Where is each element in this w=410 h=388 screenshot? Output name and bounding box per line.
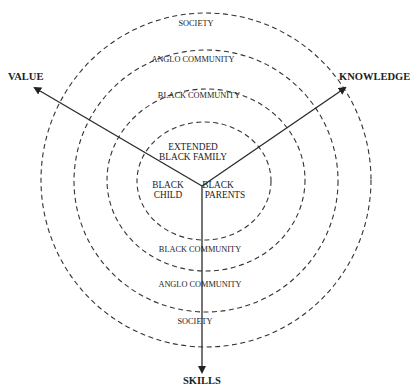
skills-axis-label: SKILLS (183, 375, 221, 386)
value-axis (35, 88, 202, 186)
society-label-bottom: SOCIETY (177, 317, 212, 326)
black-parents-label-line1: BLACK (202, 180, 234, 190)
knowledge-axis (202, 88, 345, 186)
knowledge-axis-label: KNOWLEDGE (339, 71, 410, 82)
anglo-community-label-top: ANGLO COMMUNITY (151, 55, 234, 64)
black-community-label-top: BLACK COMMUNITY (158, 91, 240, 100)
extended-family-label-line1: EXTENDED (168, 142, 218, 152)
diagram-canvas: VALUE KNOWLEDGE SKILLS SOCIETY ANGLO COM… (0, 0, 410, 388)
black-child-label-line2: CHILD (154, 190, 183, 200)
ecological-model-diagram: VALUE KNOWLEDGE SKILLS SOCIETY ANGLO COM… (0, 0, 410, 388)
value-axis-label: VALUE (8, 71, 43, 82)
black-community-label-bottom: BLACK COMMUNITY (159, 245, 241, 254)
anglo-community-label-bottom: ANGLO COMMUNITY (158, 280, 241, 289)
extended-family-label-line2: BLACK FAMILY (159, 152, 227, 162)
black-parents-label-line2: PARENTS (205, 190, 245, 200)
black-child-label-line1: BLACK (152, 180, 184, 190)
society-label-top: SOCIETY (178, 19, 213, 28)
